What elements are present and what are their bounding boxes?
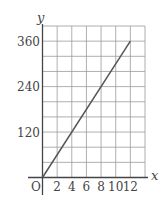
x-tick-label: 10 [108, 180, 123, 194]
x-tick-label: 4 [68, 180, 76, 194]
y-tick-label: 360 [17, 35, 40, 49]
y-axis-label: y [36, 10, 45, 25]
x-tick-label: 8 [97, 180, 105, 194]
y-tick-label: 120 [17, 126, 40, 140]
origin-label: O [31, 180, 41, 194]
x-tick-label: 6 [83, 180, 91, 194]
y-tick-label: 240 [17, 80, 40, 94]
x-tick-label: 2 [53, 180, 61, 194]
x-tick-label: 12 [123, 180, 138, 194]
x-axis-label: x [151, 168, 159, 183]
line-chart: 24681012120240360 x y O [0, 0, 165, 200]
